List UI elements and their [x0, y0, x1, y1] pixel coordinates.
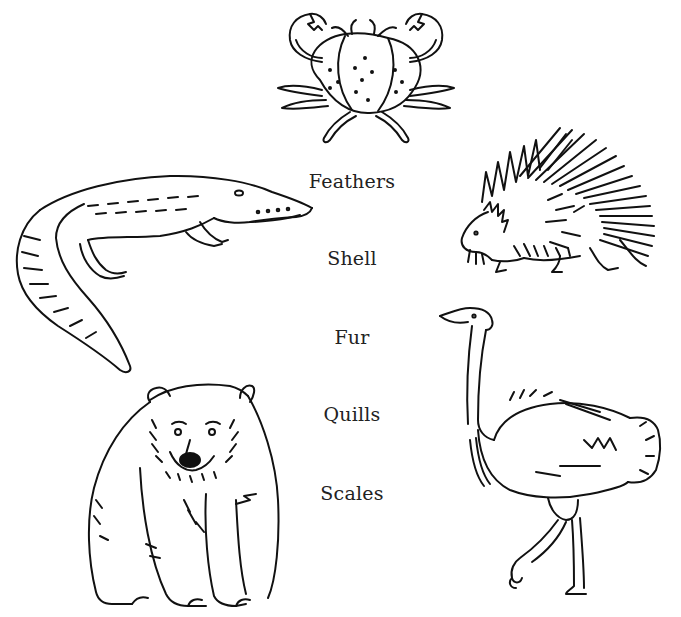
word-scales: Scales — [320, 482, 383, 504]
word-shell: Shell — [327, 247, 377, 269]
crab-illustration — [278, 14, 454, 142]
ostrich-illustration — [440, 308, 660, 594]
animal-illustrations — [0, 0, 681, 617]
word-fur: Fur — [334, 326, 369, 348]
word-quills: Quills — [324, 403, 381, 425]
bear-illustration — [89, 385, 279, 606]
matching-worksheet: Feathers Shell Fur Quills Scales — [0, 0, 681, 617]
porcupine-illustration — [462, 128, 654, 272]
word-feathers: Feathers — [309, 170, 395, 192]
crocodile-illustration — [17, 176, 312, 372]
